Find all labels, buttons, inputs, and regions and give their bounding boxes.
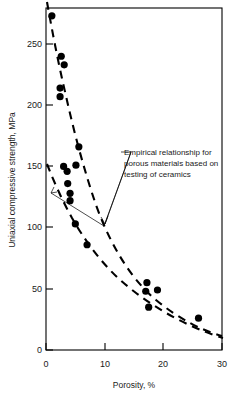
- y-axis-tick-labels: 0 50 100 150 200 250: [27, 39, 42, 355]
- x-tick-label: 30: [217, 359, 227, 369]
- data-point: [72, 162, 79, 169]
- data-point: [66, 190, 73, 197]
- y-tick-label: 200: [27, 100, 42, 110]
- data-point: [142, 288, 149, 295]
- data-point: [195, 315, 202, 322]
- x-tick-label: 10: [100, 359, 110, 369]
- x-tick-label: 0: [43, 359, 48, 369]
- data-point: [83, 241, 90, 248]
- x-tick-label: 20: [158, 359, 168, 369]
- x-axis-tick-labels: 0 10 20 30: [43, 359, 227, 369]
- x-axis-title: Porosity, %: [113, 380, 156, 390]
- lower-bound-empirical-curve: [47, 164, 223, 338]
- y-tick-label: 250: [27, 39, 42, 49]
- data-point: [58, 53, 65, 60]
- y-axis-title: Uniaxial compressive strength, MPa: [7, 112, 17, 248]
- data-point: [56, 84, 63, 91]
- data-point: [64, 180, 71, 187]
- chart-figure: 0 50 100 150 200 250 0 10 20 30 Porosity…: [0, 0, 240, 397]
- porosity-vs-strength-scatter-chart: 0 50 100 150 200 250 0 10 20 30 Porosity…: [0, 0, 240, 397]
- y-tick-label: 0: [37, 345, 42, 355]
- data-point: [75, 143, 82, 150]
- data-point: [56, 93, 63, 100]
- plot-frame: [46, 8, 222, 350]
- annotation-line: testing of ceramics: [124, 170, 191, 179]
- y-axis-ticks: [46, 44, 53, 350]
- x-axis-ticks: [46, 343, 222, 350]
- annotation-line: Empirical relationship for: [124, 148, 212, 157]
- empirical-relationship-note: Empirical relationship for porous materi…: [124, 148, 218, 179]
- data-point: [145, 304, 152, 311]
- y-tick-label: 150: [27, 161, 42, 171]
- data-point: [64, 168, 71, 175]
- y-tick-label: 50: [32, 284, 42, 294]
- upper-bound-empirical-curve: [47, 2, 222, 336]
- data-point: [66, 197, 73, 204]
- data-point: [48, 12, 55, 19]
- data-point: [72, 220, 79, 227]
- annotation-line: porous materials based on: [124, 159, 218, 168]
- data-point: [154, 286, 161, 293]
- data-point: [61, 61, 68, 68]
- data-point: [143, 279, 150, 286]
- y-tick-label: 100: [27, 222, 42, 232]
